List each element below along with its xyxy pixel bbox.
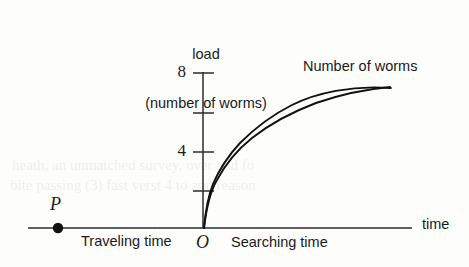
curve-label: Number of worms	[303, 58, 417, 74]
traveling-time-label: Traveling time	[81, 233, 172, 249]
origin-label: O	[196, 232, 209, 252]
y-axis-title: load (number of worms)	[118, 14, 294, 144]
y-tick-label-4: 4	[162, 141, 186, 160]
searching-time-label: Searching time	[231, 234, 328, 250]
load-vs-time-figure: heath, an unmatched survey, over and fo …	[0, 0, 469, 267]
y-tick-label-8: 8	[162, 62, 186, 81]
y-axis-title-line1: load	[118, 46, 294, 62]
point-p-label: P	[50, 194, 61, 214]
y-axis-title-line2: (number of worms)	[118, 95, 294, 111]
point-p-marker	[53, 223, 63, 233]
x-axis-label: time	[422, 216, 449, 232]
